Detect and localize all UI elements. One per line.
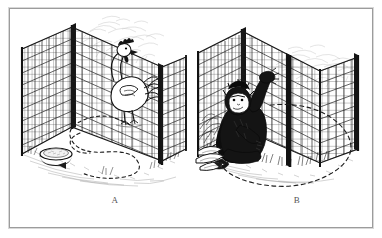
panel-a-label: A	[10, 195, 206, 205]
panel-a-artwork	[10, 9, 192, 194]
panel-b-artwork	[192, 9, 374, 194]
panel-b: B	[192, 9, 374, 229]
fence-panel-right	[318, 53, 360, 165]
detour-path-a-arrow	[58, 162, 66, 169]
panel-a: A	[10, 9, 192, 229]
panel-b-label: B	[192, 195, 382, 205]
fence-panel-left	[20, 23, 76, 159]
figure-style-note: pen-and-ink line drawing	[0, 0, 1, 1]
fence-panel-right	[160, 53, 188, 165]
bowl-icon	[40, 148, 72, 166]
figure-frame: A	[9, 8, 373, 228]
